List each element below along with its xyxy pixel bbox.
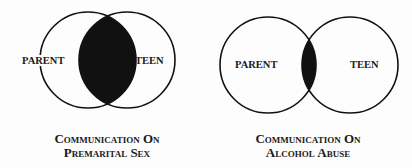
parent-label: PARENT — [235, 59, 277, 70]
caption-line: Premarital Sex — [22, 146, 192, 160]
caption-premarital-sex: Communication On Premarital Sex — [22, 132, 192, 160]
caption-line: Communication On — [223, 132, 393, 146]
teen-label: TEEN — [135, 55, 164, 66]
caption-line: Communication On — [22, 132, 192, 146]
caption-line: Alcohol Abuse — [223, 146, 393, 160]
teen-label: TEEN — [350, 59, 379, 70]
parent-label: PARENT — [21, 55, 65, 66]
caption-alcohol-abuse: Communication On Alcohol Abuse — [223, 132, 393, 160]
